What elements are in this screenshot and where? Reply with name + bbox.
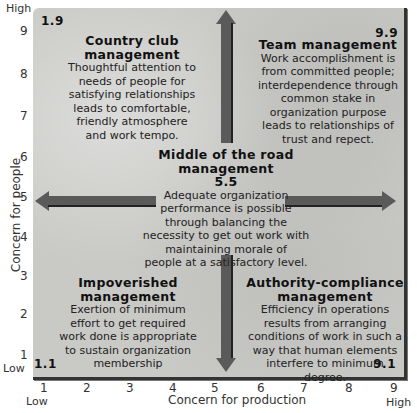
middle-desc-line: maintaining morale of <box>141 243 311 257</box>
impoverished-title-1: Impoverished <box>53 276 203 290</box>
authority-desc-line: results from arranging <box>245 317 405 331</box>
x-axis-title: Concern for production <box>168 393 306 407</box>
country-club-desc-line: friendly atmosphere <box>57 115 207 129</box>
corner-label-1-9: 1.9 <box>41 14 64 28</box>
middle-score: 5.5 <box>141 175 311 189</box>
x-axis-high-label: High <box>386 396 411 409</box>
team-desc-line: Work accomplishment is <box>253 52 403 66</box>
y-axis-title: Concern for people <box>9 155 23 275</box>
country-club-title-1: Country club <box>57 34 207 48</box>
middle-desc-line: people at a satisfactory level. <box>141 256 311 270</box>
x-tick-3: 3 <box>126 381 134 395</box>
team-desc-line: common stake in <box>253 92 403 106</box>
x-tick-1: 1 <box>40 381 48 395</box>
authority-desc-line: way that human elements <box>245 344 405 358</box>
impoverished-desc-line: effort to get required <box>53 317 203 331</box>
authority-desc-line: conditions of work in such a <box>245 330 405 344</box>
middle-desc-line: performance is possible <box>141 202 311 216</box>
country-club-management: Country club management Thoughtful atten… <box>57 34 207 142</box>
authority-desc-line: Efficiency in operations <box>245 303 405 317</box>
middle-desc-line: through balancing the <box>141 216 311 230</box>
country-club-desc-line: and work tempo. <box>57 129 207 143</box>
team-title: Team management <box>253 38 403 52</box>
middle-title-2: management <box>141 162 311 176</box>
impoverished-desc-line: work done is appropriate <box>53 330 203 344</box>
authority-compliance-management: Authority-compliance management Efficien… <box>245 276 405 384</box>
team-desc-line: leads to relationships of <box>253 119 403 133</box>
y-tick-1: 1 <box>20 348 28 362</box>
x-tick-9: 9 <box>390 381 398 395</box>
y-axis-low-label: Low <box>3 362 25 375</box>
team-desc-line: trust and repect. <box>253 133 403 147</box>
middle-desc-line: necessity to get out work with <box>141 229 311 243</box>
middle-desc-line: Adequate organization <box>141 189 311 203</box>
y-tick-9: 9 <box>20 24 28 38</box>
country-club-title-2: management <box>57 48 207 62</box>
impoverished-desc-line: membership <box>53 357 203 371</box>
impoverished-desc-line: Exertion of minimum <box>53 303 203 317</box>
impoverished-desc-line: to sustain organization <box>53 344 203 358</box>
y-tick-7: 7 <box>20 109 28 123</box>
authority-title-2: management <box>245 290 405 304</box>
team-management: Team management Work accomplishment is f… <box>253 38 403 146</box>
country-club-desc-line: satisfying relationships <box>57 88 207 102</box>
country-club-desc-line: Thoughtful attention to <box>57 61 207 75</box>
y-tick-8: 8 <box>20 67 28 81</box>
authority-title-1: Authority-compliance <box>245 276 405 290</box>
impoverished-management: Impoverished management Exertion of mini… <box>53 276 203 371</box>
managerial-grid-panel: 1.9 9.9 1.1 9.1 Country club management … <box>33 8 407 380</box>
country-club-desc-line: needs of people for <box>57 75 207 89</box>
authority-desc-line: degree. <box>245 371 405 385</box>
x-axis-low-label: Low <box>26 395 48 408</box>
x-tick-8: 8 <box>345 381 353 395</box>
team-desc-line: organization purpose <box>253 106 403 120</box>
middle-title-1: Middle of the road <box>141 148 311 162</box>
y-axis-high-label: High <box>6 2 31 15</box>
team-desc-line: from committed people; <box>253 65 403 79</box>
country-club-desc-line: leads to comfortable, <box>57 102 207 116</box>
team-desc-line: interdependence through <box>253 79 403 93</box>
authority-desc-line: interfere to minimum <box>245 357 405 371</box>
x-tick-2: 2 <box>83 381 91 395</box>
y-tick-2: 2 <box>20 307 28 321</box>
impoverished-title-2: management <box>53 290 203 304</box>
middle-of-the-road-management: Middle of the road management 5.5 Adequa… <box>141 148 311 270</box>
